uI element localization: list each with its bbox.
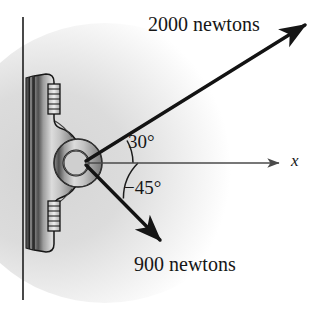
axis-label-x: x: [291, 152, 299, 169]
bolt-fastener-icon: [48, 84, 60, 114]
force-label-900-newtons: 900 newtons: [134, 254, 236, 274]
angle-label-30-degrees: 30°: [128, 132, 155, 151]
force-label-2000-newtons: 2000 newtons: [148, 14, 260, 34]
bolt-fastener-icon: [48, 201, 60, 231]
force-diagram-figure: 2000 newtons 900 newtons 30° −45° x: [0, 0, 319, 314]
angle-label-negative-45-degrees: −45°: [124, 178, 161, 197]
